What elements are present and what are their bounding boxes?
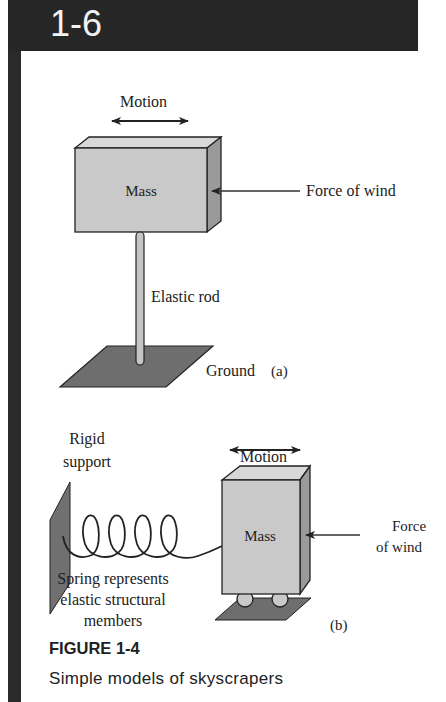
- support-label-line1: Rigid: [69, 430, 105, 448]
- panel-tag-b: (b): [330, 617, 348, 634]
- mass-label-b: Mass: [244, 528, 276, 544]
- skyscraper-models-diagram: Motion Mass Force of wind Elastic rod Gr…: [0, 0, 446, 702]
- figure-caption-text: Simple models of skyscrapers: [49, 669, 283, 689]
- mass-block-a: Mass: [75, 137, 221, 232]
- elastic-rod: [136, 232, 144, 365]
- spring-label-line2: elastic structural: [60, 591, 166, 608]
- spring-label-line3: members: [84, 612, 143, 629]
- force-label-b-line1: Force: [392, 518, 426, 534]
- support-label-line2: support: [63, 453, 112, 471]
- force-label-a: Force of wind: [306, 182, 396, 199]
- rod-label: Elastic rod: [151, 288, 220, 305]
- force-label-b-line2: of wind: [376, 539, 423, 555]
- figure-caption-title: FIGURE 1-4: [49, 639, 140, 658]
- ground-plate-b: [215, 598, 311, 620]
- panel-a: Motion Mass Force of wind Elastic rod Gr…: [60, 93, 396, 387]
- motion-label-a: Motion: [120, 93, 167, 110]
- panel-b: Rigid support Motion Mass Force of wind …: [50, 430, 426, 634]
- spring-icon: [63, 515, 222, 557]
- mass-label-a: Mass: [125, 183, 157, 199]
- ground-label: Ground: [206, 362, 255, 379]
- mass-block-b: Mass: [222, 466, 310, 594]
- spring-label-line1: Spring represents: [57, 570, 169, 588]
- panel-tag-a: (a): [271, 363, 288, 380]
